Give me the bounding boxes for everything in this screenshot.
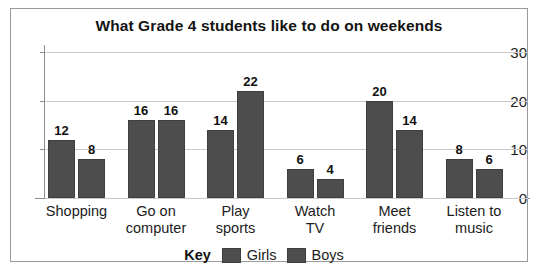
bar-boys: 8 xyxy=(78,159,105,198)
chart-title: What Grade 4 students like to do on week… xyxy=(11,17,527,35)
bar-group: 86 xyxy=(446,52,503,198)
bar-boys: 6 xyxy=(476,169,503,198)
bar-girls: 14 xyxy=(207,130,234,198)
legend-swatch-icon xyxy=(287,248,306,263)
plot-area: 1281616142264201486 xyxy=(45,52,528,198)
bar-group: 128 xyxy=(48,52,105,198)
legend-item-girls[interactable]: Girls xyxy=(222,247,277,263)
legend-item-boys[interactable]: Boys xyxy=(287,247,344,263)
category-label: Listen tomusic xyxy=(422,203,526,237)
bar-value-label: 6 xyxy=(469,152,509,167)
bar-girls: 16 xyxy=(128,120,155,198)
legend-key-label: Key xyxy=(184,247,211,263)
bar-value-label: 20 xyxy=(360,84,400,99)
bar-value-label: 22 xyxy=(231,74,271,89)
bar-boys: 16 xyxy=(158,120,185,198)
category-label-line: music xyxy=(422,220,526,237)
chart-screenshot: What Grade 4 students like to do on week… xyxy=(0,0,539,273)
category-label-line: Listen to xyxy=(422,203,526,220)
bar-group: 1422 xyxy=(207,52,264,198)
bar-group: 64 xyxy=(287,52,344,198)
bar-value-label: 14 xyxy=(390,113,430,128)
legend-label: Girls xyxy=(247,247,277,263)
legend-label: Boys xyxy=(312,247,344,263)
bar-value-label: 14 xyxy=(201,113,241,128)
bar-boys: 4 xyxy=(317,179,344,198)
bar-boys: 22 xyxy=(237,91,264,198)
legend-items: GirlsBoys xyxy=(222,247,354,263)
bar-value-label: 12 xyxy=(42,123,82,138)
legend-swatch-icon xyxy=(222,248,241,263)
gridline-0 xyxy=(45,198,528,199)
bar-boys: 14 xyxy=(396,130,423,198)
bar-value-label: 16 xyxy=(151,103,191,118)
bar-value-label: 8 xyxy=(72,142,112,157)
bar-group: 2014 xyxy=(366,52,423,198)
chart-legend: Key GirlsBoys xyxy=(11,247,527,263)
bar-value-label: 4 xyxy=(310,162,350,177)
chart-frame: What Grade 4 students like to do on week… xyxy=(10,8,528,262)
bar-group: 1616 xyxy=(128,52,185,198)
